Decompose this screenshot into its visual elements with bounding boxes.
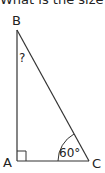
angle-b-label: ? [19,51,25,65]
triangle-diagram: B A C ? 60° [0,0,105,173]
side-bc [17,30,89,161]
vertex-label-b: B [12,13,21,28]
vertex-label-c: C [92,156,101,171]
angle-c-label: 60° [59,146,80,160]
right-angle-marker [17,151,26,161]
vertex-label-a: A [3,155,12,170]
